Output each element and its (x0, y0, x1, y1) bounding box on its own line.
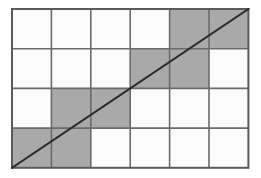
figure-root (0, 0, 261, 178)
grid-cell (130, 128, 169, 168)
grid-cell (170, 49, 209, 89)
grid-cell (130, 88, 169, 128)
grid-svg (11, 8, 250, 169)
grid-cell (130, 9, 169, 49)
grid-cell (91, 49, 130, 89)
grid-cell (209, 9, 248, 49)
grid-cell (170, 9, 209, 49)
grid-cell (170, 128, 209, 168)
grid-cell (51, 88, 90, 128)
grid-cell (209, 88, 248, 128)
grid-cell (209, 49, 248, 89)
grid-cell (170, 88, 209, 128)
grid-cell (130, 49, 169, 89)
grid-cell (51, 9, 90, 49)
grid-cell (51, 128, 90, 168)
grid-cell (12, 49, 51, 89)
grid-cell (12, 88, 51, 128)
grid-cell (209, 128, 248, 168)
grid-cell (91, 88, 130, 128)
grid-cell (91, 128, 130, 168)
grid-cell (91, 9, 130, 49)
grid-diagram (11, 8, 250, 169)
grid-cell (12, 128, 51, 168)
grid-cell (51, 49, 90, 89)
grid-cell (12, 9, 51, 49)
